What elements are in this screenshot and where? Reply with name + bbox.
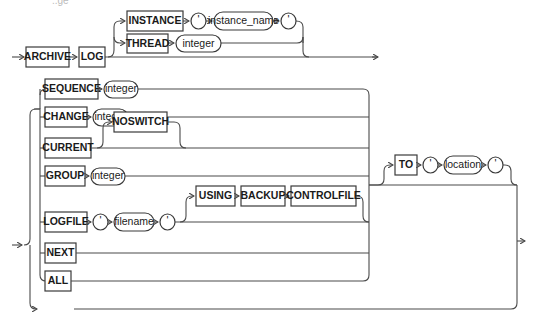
syntax-diagram-tail: [0, 0, 537, 319]
